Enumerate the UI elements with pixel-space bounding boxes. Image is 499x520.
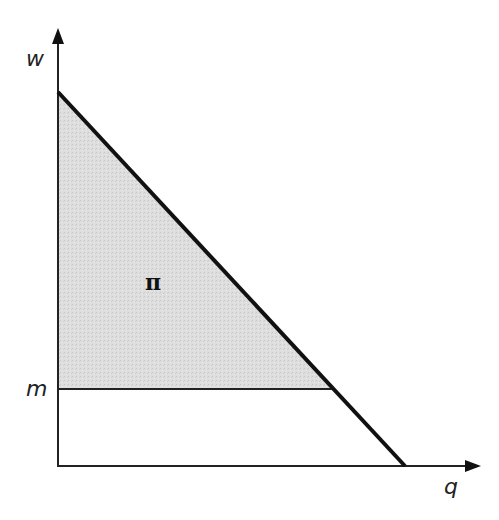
x-axis-label: q	[444, 474, 458, 499]
m-label: m	[26, 376, 47, 401]
diagram-canvas: w m q π	[0, 0, 499, 520]
y-axis-label: w	[26, 46, 45, 71]
y-axis-arrow-icon	[52, 28, 64, 44]
profit-label: π	[145, 269, 161, 295]
x-axis-arrow-icon	[465, 460, 481, 472]
